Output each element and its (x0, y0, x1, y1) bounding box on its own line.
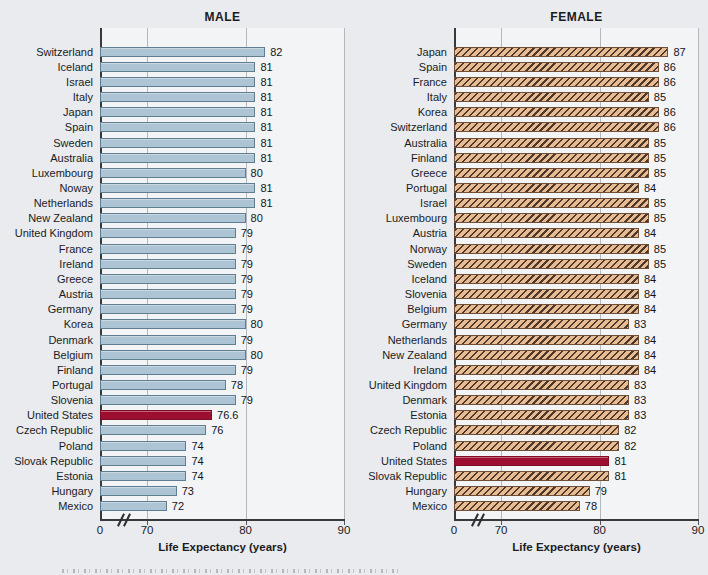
value-label: 81 (260, 197, 272, 209)
country-label: Belgium (53, 349, 93, 361)
value-label: 82 (624, 424, 636, 436)
bar (100, 107, 255, 117)
country-label: Estonia (56, 470, 93, 482)
bar (100, 486, 177, 496)
value-label: 83 (634, 379, 646, 391)
value-label: 79 (241, 273, 253, 285)
bar-row: Noway81 (100, 180, 344, 195)
bar-row: Denmark79 (100, 332, 344, 347)
country-label: Austria (413, 227, 447, 239)
bar (454, 441, 619, 451)
country-label: Korea (418, 106, 447, 118)
bar (454, 47, 668, 57)
country-label: Japan (417, 46, 447, 58)
bar (100, 319, 246, 329)
male-x-axis-line (100, 519, 345, 521)
x-tick-label-90: 90 (692, 524, 705, 536)
value-label: 85 (654, 243, 666, 255)
bar-row: Finland85 (454, 150, 698, 165)
male-bar-rows: Switzerland82Iceland81Israel81Italy81Jap… (100, 44, 344, 514)
bar (100, 395, 236, 405)
bar-row: United Kingdom79 (100, 226, 344, 241)
bar-row: Iceland84 (454, 271, 698, 286)
female-plot-area: Japan87Spain86France86Italy85Korea86Swit… (454, 28, 698, 519)
bar (100, 501, 167, 511)
bar-row: France79 (100, 241, 344, 256)
value-label: 81 (260, 182, 272, 194)
x-tick-mark (147, 521, 148, 525)
country-label: Czech Republic (370, 424, 447, 436)
value-label: 79 (241, 243, 253, 255)
bar (100, 122, 255, 132)
x-tick-label-0: 0 (451, 524, 457, 536)
country-label: United States (27, 409, 93, 421)
value-label: 79 (241, 334, 253, 346)
x-tick-label-90: 90 (338, 524, 351, 536)
value-label: 86 (664, 76, 676, 88)
country-label: Italy (73, 91, 93, 103)
bar (454, 153, 649, 163)
bar-row: New Zealand84 (454, 347, 698, 362)
bar-row: Sweden81 (100, 135, 344, 150)
bar-row: Switzerland86 (454, 120, 698, 135)
bar-row: Australia81 (100, 150, 344, 165)
bar-row: Portugal84 (454, 180, 698, 195)
bar-row: Israel85 (454, 196, 698, 211)
bar-row: Japan87 (454, 44, 698, 59)
bar-row: Luxembourg85 (454, 211, 698, 226)
male-chart-title: MALE (100, 10, 345, 24)
bar-row: Japan81 (100, 105, 344, 120)
country-label: Slovak Republic (368, 470, 447, 482)
bar-row: United States76.6 (100, 408, 344, 423)
value-label: 76.6 (217, 409, 238, 421)
value-label: 85 (654, 212, 666, 224)
bar-row: Israel81 (100, 74, 344, 89)
bar-row: Poland74 (100, 438, 344, 453)
bar-row: Netherlands81 (100, 196, 344, 211)
value-label: 83 (634, 394, 646, 406)
value-label: 84 (644, 227, 656, 239)
bar (100, 138, 255, 148)
value-label: 81 (614, 455, 626, 467)
bar-row: Italy81 (100, 89, 344, 104)
bar (454, 335, 639, 345)
bar (100, 350, 246, 360)
bar (454, 289, 639, 299)
country-label: Spain (65, 121, 93, 133)
bar (100, 274, 236, 284)
country-label: Norway (410, 243, 447, 255)
highlight-bar (100, 410, 212, 420)
country-label: Denmark (48, 334, 93, 346)
bar (100, 183, 255, 193)
value-label: 80 (251, 318, 263, 330)
bar (454, 274, 639, 284)
country-label: Hungary (405, 485, 447, 497)
bar (454, 471, 609, 481)
value-label: 81 (260, 121, 272, 133)
value-label: 74 (191, 470, 203, 482)
value-label: 84 (644, 334, 656, 346)
bar-row: Portugal78 (100, 377, 344, 392)
x-tick-label-70: 70 (141, 524, 154, 536)
bar-row: Ireland79 (100, 256, 344, 271)
bar-row: Iceland81 (100, 59, 344, 74)
bar (454, 425, 619, 435)
value-label: 79 (241, 394, 253, 406)
bar (100, 153, 255, 163)
value-label: 81 (260, 106, 272, 118)
x-tick-mark (600, 521, 601, 525)
bar (454, 365, 639, 375)
country-label: Luxembourg (386, 212, 447, 224)
value-label: 76 (211, 424, 223, 436)
bar-row: Finland79 (100, 362, 344, 377)
country-label: France (413, 76, 447, 88)
value-label: 74 (191, 440, 203, 452)
bar (454, 395, 629, 405)
country-label: Switzerland (36, 46, 93, 58)
bar-row: Netherlands84 (454, 332, 698, 347)
country-label: Poland (413, 440, 447, 452)
bar-row: Czech Republic82 (454, 423, 698, 438)
bar-row: Estonia74 (100, 468, 344, 483)
value-label: 83 (634, 318, 646, 330)
bar (100, 213, 246, 223)
